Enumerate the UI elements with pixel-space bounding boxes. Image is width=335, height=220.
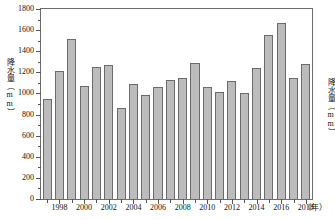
y-axis-tick-mark — [36, 178, 41, 179]
y-axis-tick-mark — [36, 115, 41, 116]
y-axis-tick-label: 1600 — [18, 25, 34, 34]
y-axis-minor-tick-mark — [38, 188, 41, 189]
x-axis-minor-tick — [96, 199, 97, 203]
x-axis-tick-label: 2008 — [175, 203, 191, 212]
y-axis-minor-tick-mark — [38, 104, 41, 105]
y-axis-tick-label: 600 — [22, 131, 34, 140]
x-axis-tick-label: 2002 — [101, 203, 117, 212]
x-axis-minor-tick — [146, 199, 147, 203]
y-axis-tick-label: 1800 — [18, 4, 34, 13]
x-axis-minor-tick — [121, 199, 122, 203]
bar — [153, 87, 162, 199]
y-axis-minor-tick-mark — [38, 20, 41, 21]
bar — [277, 23, 286, 199]
x-axis-minor-tick — [195, 199, 196, 203]
bar — [240, 93, 249, 199]
bar — [215, 92, 224, 199]
x-axis-minor-tick — [294, 199, 295, 203]
bar — [129, 84, 138, 199]
y-axis-tick-mark — [36, 136, 41, 137]
y-axis-tick-label: 400 — [22, 152, 34, 161]
bar — [301, 64, 310, 199]
bar — [55, 71, 64, 199]
y-axis-tick-mark — [36, 51, 41, 52]
y-axis-tick-label: 1400 — [18, 46, 34, 55]
bar — [190, 63, 199, 199]
y-axis-minor-tick-mark — [38, 146, 41, 147]
bar — [141, 95, 150, 199]
secondary-y-axis-title: 降水量（mm） — [322, 78, 335, 136]
y-axis-tick-mark — [36, 9, 41, 10]
x-axis-minor-tick — [269, 199, 270, 203]
x-axis-minor-tick — [220, 199, 221, 203]
y-axis-tick-label: 200 — [22, 173, 34, 182]
y-axis-title: 降水量（mm） — [1, 58, 14, 116]
y-axis-tick-mark — [36, 157, 41, 158]
x-axis-tick-label: 2004 — [125, 203, 141, 212]
x-axis-tick-label: 2010 — [199, 203, 215, 212]
y-axis-tick-label: 0 — [30, 194, 34, 203]
x-axis-unit-label: （年） — [303, 203, 327, 212]
x-axis-minor-tick — [170, 199, 171, 203]
plot-area: 020040060080010001200140016001800 — [40, 8, 313, 200]
y-axis-tick-mark — [36, 93, 41, 94]
bar — [80, 86, 89, 199]
plot-inner: 020040060080010001200140016001800 — [41, 9, 312, 199]
y-axis-tick-label: 1000 — [18, 88, 34, 97]
y-axis-minor-tick-mark — [38, 83, 41, 84]
y-axis-tick-label: 800 — [22, 110, 34, 119]
y-axis-minor-tick-mark — [38, 62, 41, 63]
x-axis-tick-label: 2012 — [224, 203, 240, 212]
x-axis-tick-label: 2000 — [76, 203, 92, 212]
y-axis-tick-mark — [36, 72, 41, 73]
x-axis-minor-tick — [72, 199, 73, 203]
x-axis-minor-tick — [244, 199, 245, 203]
precipitation-bar-chart: 降水量（mm） 降水量（mm） 020040060080010001200140… — [0, 0, 335, 220]
bar — [67, 39, 76, 199]
y-axis-tick-mark — [36, 30, 41, 31]
y-axis-minor-tick-mark — [38, 167, 41, 168]
y-axis-minor-tick-mark — [38, 125, 41, 126]
bar — [104, 65, 113, 199]
bar — [252, 68, 261, 199]
x-axis-tick-label: 2016 — [273, 203, 289, 212]
x-axis-tick-label: 1998 — [51, 203, 67, 212]
y-axis-minor-tick-mark — [38, 41, 41, 42]
y-axis-tick-mark — [36, 199, 41, 200]
x-axis-tick-label: 2006 — [150, 203, 166, 212]
bar — [178, 78, 187, 199]
x-axis-tick-label: 2014 — [249, 203, 265, 212]
bar — [92, 67, 101, 199]
bar — [264, 35, 273, 199]
bar — [289, 78, 298, 199]
bar — [117, 108, 126, 199]
bar — [43, 99, 52, 199]
bar — [166, 80, 175, 199]
bar — [227, 81, 236, 199]
y-axis-tick-label: 1200 — [18, 67, 34, 76]
bar — [203, 87, 212, 199]
x-axis-minor-tick — [47, 199, 48, 203]
